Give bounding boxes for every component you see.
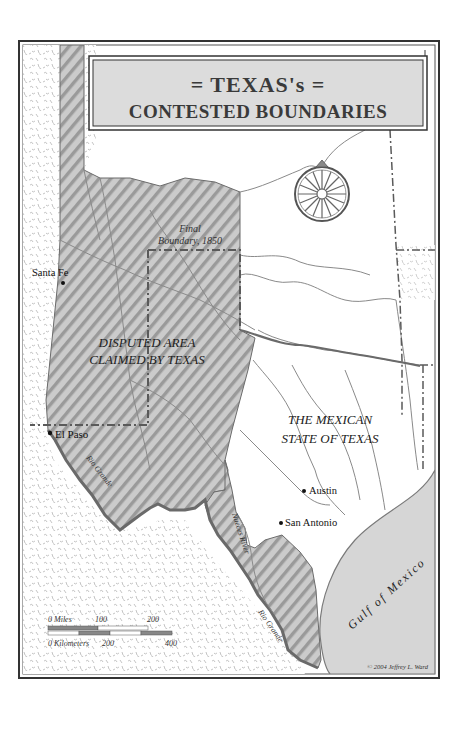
city-dot-icon xyxy=(302,489,306,493)
terrain-stipple-east xyxy=(396,245,435,300)
city-label: San Antonio xyxy=(285,517,337,528)
texas-contested-boundaries-map: = TEXAS's = CONTESTED BOUNDARIES Final B… xyxy=(0,0,469,733)
city-dot-icon xyxy=(279,521,283,525)
mexican-texas-label-line2: STATE OF TEXAS xyxy=(282,431,379,446)
copyright-notice: © 2004 Jeffrey L. Ward xyxy=(367,663,428,670)
final-boundary-label-line1: Final xyxy=(178,223,201,234)
scale-km-label: 0 Kilometers xyxy=(48,639,89,648)
title-box: = TEXAS's = CONTESTED BOUNDARIES xyxy=(89,56,427,130)
title-line1: = TEXAS's = xyxy=(191,72,326,97)
city-label: Santa Fe xyxy=(32,267,69,278)
map-container: = TEXAS's = CONTESTED BOUNDARIES Final B… xyxy=(0,0,469,733)
city-dot-icon xyxy=(61,281,65,285)
scale-miles-label: 0 Miles xyxy=(48,615,72,624)
scale-miles-tick-100: 100 xyxy=(95,615,107,624)
disputed-area-label-line2: CLAIMED BY TEXAS xyxy=(89,352,205,367)
city-label: Austin xyxy=(309,485,338,496)
city-label: El Paso xyxy=(55,428,89,440)
disputed-area-label-line1: DISPUTED AREA xyxy=(98,335,196,350)
mexican-texas-label-line1: THE MEXICAN xyxy=(288,412,373,427)
city-dot-icon xyxy=(48,431,52,435)
scale-miles-tick-200: 200 xyxy=(147,615,159,624)
scale-km-tick-200: 200 xyxy=(102,639,114,648)
scale-km-tick-400: 400 xyxy=(165,639,177,648)
final-boundary-label-line2: Boundary, 1850 xyxy=(158,235,222,246)
title-line2: CONTESTED BOUNDARIES xyxy=(129,101,388,122)
city-san-antonio: San Antonio xyxy=(279,517,337,528)
